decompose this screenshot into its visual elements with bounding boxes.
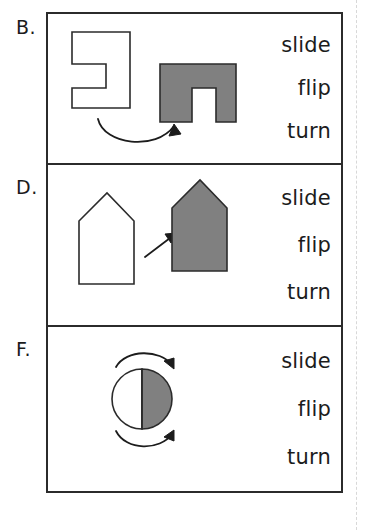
- panel-f-figure-area: [48, 327, 238, 491]
- panel-d: slide flip turn: [48, 165, 341, 327]
- panel-letter-b: B.: [16, 16, 44, 38]
- panel-d-figure-area: [48, 165, 238, 325]
- house-pentagon-slide-figure: [48, 165, 238, 325]
- choice-turn[interactable]: turn: [287, 446, 333, 468]
- half-shaded-circle-turn-figure: [48, 327, 238, 489]
- gray-house-pentagon: [172, 180, 227, 271]
- panel-f-choices: slide flip turn: [223, 327, 333, 491]
- choice-turn[interactable]: turn: [287, 281, 333, 303]
- choice-slide[interactable]: slide: [281, 350, 333, 372]
- white-notched-rectangle: [72, 32, 130, 108]
- panel-letter-f: F.: [16, 338, 44, 360]
- choice-slide[interactable]: slide: [281, 187, 333, 209]
- panel-b-figure-area: [48, 14, 238, 163]
- white-house-pentagon: [79, 193, 134, 284]
- notched-rectangle-turn-figure: [48, 14, 238, 163]
- scan-edge-dashed-line: [356, 0, 357, 530]
- panel-d-choices: slide flip turn: [223, 165, 333, 325]
- panel-letter-d: D.: [16, 176, 44, 198]
- panel-box: slide flip turn slide fli: [46, 12, 343, 493]
- panel-b-choices: slide flip turn: [223, 14, 333, 163]
- circle-gray-right-half: [142, 369, 172, 429]
- curved-rotation-arrow-top: [116, 353, 172, 367]
- choice-turn[interactable]: turn: [287, 120, 333, 142]
- choice-flip[interactable]: flip: [298, 77, 333, 99]
- worksheet-page: B. D. F. slide flip turn: [0, 0, 365, 530]
- panel-f: slide flip turn: [48, 327, 341, 491]
- choice-flip[interactable]: flip: [298, 398, 333, 420]
- panel-b: slide flip turn: [48, 14, 341, 165]
- curved-rotation-arrow-bottom: [116, 431, 172, 446]
- choice-slide[interactable]: slide: [281, 34, 333, 56]
- circle-white-left-half: [112, 369, 142, 429]
- choice-flip[interactable]: flip: [298, 234, 333, 256]
